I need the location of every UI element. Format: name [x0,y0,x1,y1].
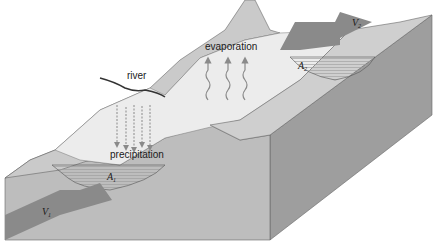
precipitation-label: precipitation [110,149,164,160]
river-block-diagram: river evaporation precipitation A1 A2 V1… [0,0,440,241]
river-label: river [127,70,147,81]
evaporation-label: evaporation [205,41,257,52]
